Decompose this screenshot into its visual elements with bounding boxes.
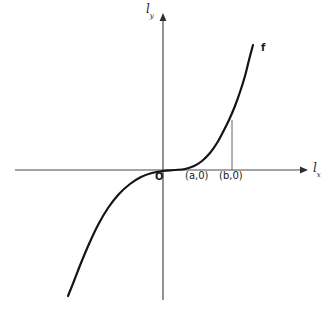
point-b-label: (b,0)	[219, 171, 243, 181]
x-axis-label: lx	[313, 162, 321, 177]
coordinate-plot	[0, 0, 329, 318]
origin-label: O	[155, 172, 164, 182]
x-axis-arrow-icon	[300, 166, 308, 173]
y-axis-arrow-icon	[160, 13, 167, 21]
y-axis-label-subscript: y	[150, 12, 154, 20]
x-axis-label-subscript: x	[317, 171, 321, 179]
curve-label-f: f	[261, 43, 265, 53]
y-axis-label: ly	[146, 3, 154, 18]
point-a-label: (a,0)	[185, 171, 208, 181]
graph-figure: ly lx O (a,0) (b,0) f	[0, 0, 329, 318]
